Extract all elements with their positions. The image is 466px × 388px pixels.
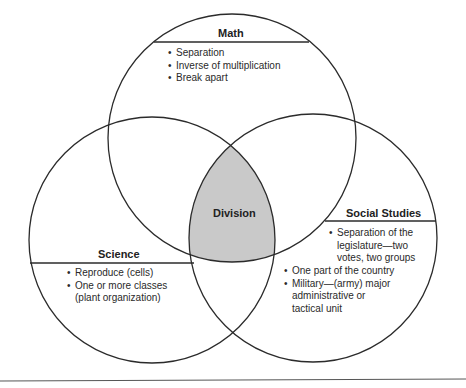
math-item: Break apart [168, 72, 281, 85]
science-title: Science [98, 248, 140, 260]
social-studies-item: Military—(army) major administrative or … [284, 278, 394, 316]
science-items: Reproduce (cells) One or more classes (p… [67, 267, 167, 305]
social-studies-title: Social Studies [346, 207, 421, 219]
social-studies-items-upper: Separation of the legislature—two votes,… [329, 227, 415, 265]
math-items: Separation Inverse of multiplication Bre… [168, 47, 281, 85]
social-studies-items-lower: One part of the country Military—(army) … [284, 265, 394, 315]
math-title: Math [218, 27, 244, 39]
science-item: Reproduce (cells) [67, 267, 167, 280]
bottom-rule [0, 379, 466, 381]
science-item: One or more classes (plant organization) [67, 280, 167, 305]
social-studies-item: Separation of the legislature—two votes,… [329, 227, 415, 265]
math-item: Inverse of multiplication [168, 60, 281, 73]
math-item: Separation [168, 47, 281, 60]
social-studies-item: One part of the country [284, 265, 394, 278]
center-label-division: Division [213, 207, 256, 219]
